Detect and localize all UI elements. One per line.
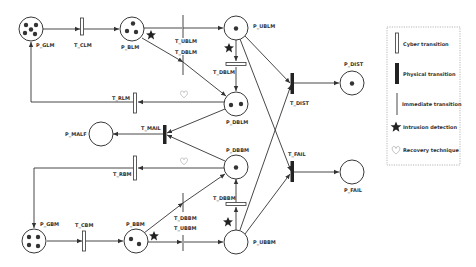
place-p-dbbm[interactable]: P_DBBM — [224, 147, 249, 179]
arc-pubbm-tfail — [245, 174, 290, 234]
token — [134, 30, 138, 34]
transition-t-rlm[interactable]: T_RLM — [112, 93, 137, 113]
transition-t-clm[interactable]: T_CLM — [74, 18, 92, 49]
transition-label: T_FAIL — [288, 151, 306, 158]
transition-t-cbm[interactable]: T_CBM — [75, 222, 93, 251]
place-p-dist[interactable]: P_DIST — [340, 61, 364, 95]
transition-label: T_MAIL — [141, 125, 162, 132]
place-p-glm[interactable]: P_GLM — [19, 17, 54, 49]
arc-trbm-pgbm — [34, 168, 134, 228]
place-label: P_DBLM — [226, 119, 248, 126]
petri-net-diagram: P_GLM P_BLM P_UBLM P_DBLM P_DIST P_M — [0, 0, 476, 267]
place-label: P_UBLM — [253, 23, 275, 30]
transition-label: T_CBM — [75, 222, 93, 229]
transition-label: T_DBLM — [175, 49, 197, 56]
place-label: P_BBM — [126, 221, 145, 228]
token — [36, 235, 40, 239]
transition-label: T_DBBM — [174, 215, 197, 222]
physical-transition-icon — [395, 63, 399, 84]
token — [131, 21, 135, 25]
place-p-ublm[interactable]: P_UBLM — [224, 16, 275, 40]
place-p-blm[interactable]: P_BLM — [120, 17, 144, 51]
transition-label: T_DBLM — [213, 69, 235, 76]
transition-t-fail[interactable]: T_FAIL — [288, 151, 306, 182]
token — [27, 235, 31, 239]
token — [27, 243, 31, 247]
place-p-gbm[interactable]: P_GBM — [22, 221, 59, 253]
token — [137, 242, 141, 246]
place-label: P_GLM — [36, 42, 54, 49]
legend-item-recovery: Recovery technique — [392, 147, 459, 155]
recovery-heart-icon — [181, 91, 188, 98]
cyber-transition-icon — [396, 33, 399, 53]
token — [229, 103, 233, 107]
place-label: P_DIST — [344, 61, 364, 68]
transition-t-dblm-immediate[interactable]: T_DBLM — [175, 49, 197, 75]
token — [23, 31, 27, 35]
intrusion-detection-star-icon — [224, 43, 234, 52]
place-label: P_GBM — [40, 221, 59, 228]
place-p-bbm[interactable]: P_BBM — [124, 221, 148, 253]
token — [24, 23, 28, 27]
legend: Cyber transition Physical transition Imm… — [387, 27, 462, 165]
transition-t-dbbm[interactable]: T_DBBM — [213, 195, 246, 206]
transition-label: T_RLM — [112, 95, 130, 102]
token — [29, 27, 33, 31]
token — [36, 244, 40, 248]
arc-trlm-pglm — [31, 42, 134, 102]
place-label: P_MALF — [65, 131, 87, 138]
arc-tdblm-imm-pdblm — [183, 62, 226, 96]
token — [33, 32, 37, 36]
transition-label: T_DBBM — [213, 195, 236, 202]
markers — [146, 30, 234, 240]
place-label: P_FAIL — [344, 187, 363, 194]
legend-label: Immediate transition — [402, 101, 462, 107]
arc-pdbbm-tmail — [167, 135, 225, 161]
token — [239, 102, 243, 106]
place-p-fail[interactable]: P_FAIL — [340, 160, 364, 194]
legend-label: Recovery technique — [403, 147, 459, 154]
transition-label: T_CLM — [74, 42, 92, 49]
transition-t-dist[interactable]: T_DIST — [290, 73, 310, 107]
place-label: P_DBBM — [226, 147, 249, 154]
transition-t-ublm[interactable]: T_UBLM — [175, 15, 197, 45]
arc-pdblm-tmail — [167, 109, 225, 133]
transition-label: T_UBLM — [175, 38, 197, 45]
transition-t-ubbm[interactable]: T_UBBM — [174, 225, 197, 251]
recovery-heart-icon — [181, 158, 188, 165]
place-p-malf[interactable]: P_MALF — [65, 122, 113, 146]
legend-label: Physical transition — [403, 71, 456, 78]
arc-publm-tdist — [245, 36, 290, 83]
place-p-ubbm[interactable]: P_UBBM — [224, 230, 276, 254]
place-label: P_BLM — [121, 44, 139, 51]
transition-label: T_UBBM — [174, 225, 197, 232]
transition-label: T_RBM — [113, 171, 132, 178]
intrusion-detection-star-icon — [223, 217, 233, 226]
place-label: P_UBBM — [253, 239, 276, 246]
intrusion-detection-star-icon — [146, 30, 156, 39]
transition-t-dblm[interactable]: T_DBLM — [213, 63, 246, 77]
intrusion-detection-star-icon — [149, 231, 159, 240]
token — [234, 165, 238, 169]
token — [350, 81, 354, 85]
place-p-dblm[interactable]: P_DBLM — [224, 92, 248, 126]
token — [129, 237, 133, 241]
transition-t-mail[interactable]: T_MAIL — [141, 125, 167, 144]
token — [234, 26, 238, 30]
legend-label: Cyber transition — [403, 41, 449, 48]
token — [125, 29, 129, 33]
legend-label: Intrusion detection — [403, 124, 458, 130]
transition-label: T_DIST — [290, 100, 310, 107]
token — [34, 23, 38, 27]
